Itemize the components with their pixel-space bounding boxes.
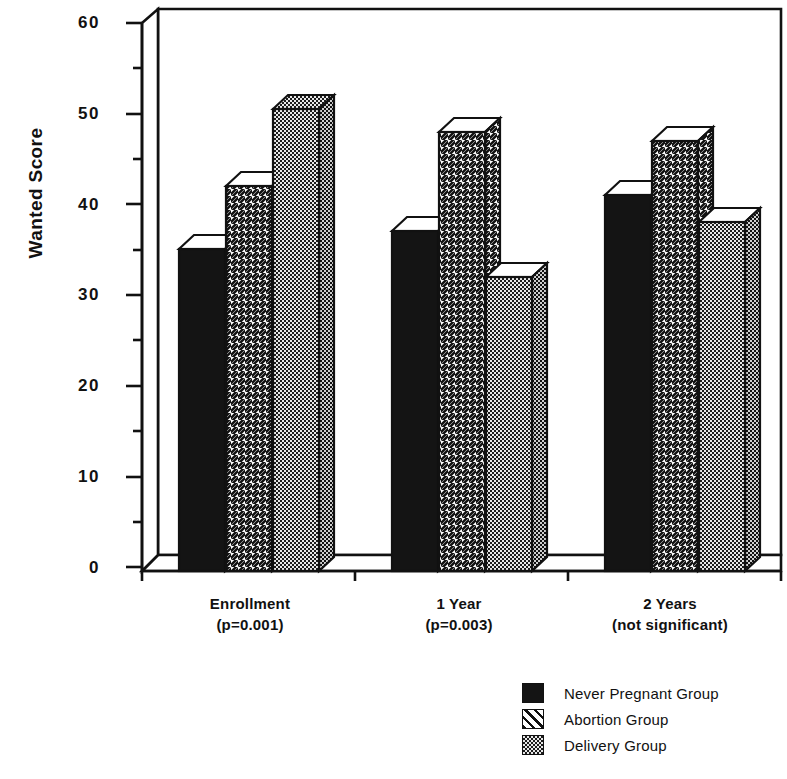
x-group-stat: (p=0.001)	[140, 614, 360, 635]
legend-label: Delivery Group	[564, 737, 667, 754]
legend-item-abortion[interactable]: Abortion Group	[522, 706, 719, 732]
x-group-label-1year: 1 Year (p=0.003)	[349, 593, 569, 635]
x-group-label-enrollment: Enrollment (p=0.001)	[140, 593, 360, 635]
bar-2years-delivery[interactable]	[699, 208, 760, 571]
chart-legend: Never Pregnant Group Abortion Group Deli…	[522, 680, 719, 758]
x-group-stat: (not significant)	[560, 614, 780, 635]
legend-label: Never Pregnant Group	[564, 685, 719, 702]
legend-item-never-pregnant[interactable]: Never Pregnant Group	[522, 680, 719, 706]
x-group-name: Enrollment	[140, 593, 360, 614]
x-group-stat: (p=0.003)	[349, 614, 569, 635]
x-axis-ticks	[142, 571, 781, 581]
bar-chart-plot	[0, 0, 787, 600]
legend-label: Abortion Group	[564, 711, 669, 728]
bar-1year-delivery[interactable]	[486, 263, 547, 571]
x-group-label-2years: 2 Years (not significant)	[560, 593, 780, 635]
legend-item-delivery[interactable]: Delivery Group	[522, 732, 719, 758]
legend-swatch-solid-black	[522, 683, 544, 703]
x-group-name: 2 Years	[560, 593, 780, 614]
x-group-name: 1 Year	[349, 593, 569, 614]
legend-swatch-checker-gray	[522, 735, 544, 755]
bar-enrollment-delivery[interactable]	[273, 95, 334, 571]
legend-swatch-diagonal-hatch	[522, 709, 544, 729]
y-axis-ticks	[126, 23, 142, 567]
